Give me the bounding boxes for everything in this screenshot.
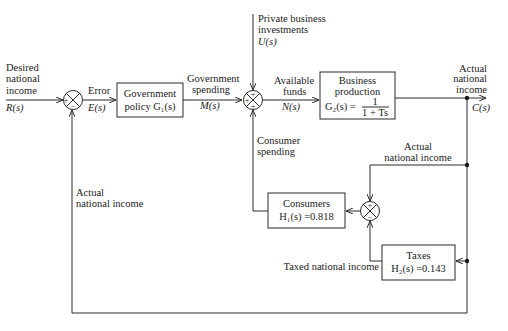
label-available-funds: Available funds N(s) [274,75,314,113]
label-desired-income: Desired national income R(s) [5,62,40,114]
taxes-block-title: Taxes [406,250,430,261]
branch-point-inner [465,163,469,167]
sj3-minus-sign: − [368,213,373,222]
sj1-minus-sign: − [71,102,76,111]
desired-line2: national [6,73,40,84]
label-private-investment: Private business investments U(s) [258,13,326,48]
sj2-bottom-plus-sign: + [251,102,256,111]
block-government-policy: Government policy G₁(s) [117,83,183,117]
private-investment-line1: Private business [258,13,326,24]
error-label: Error [88,85,111,96]
summing-junction-1: + − [64,91,83,111]
sj1-plus-sign: + [64,96,69,105]
feedback-income-line1: Actual [76,187,104,198]
taxes-block-gain: H₂(s) =0.143 [391,263,446,275]
branch-point-output [465,96,469,100]
taxed-income-label: Taxed national income [284,261,380,272]
wire-consumer-spending [253,110,268,211]
available-funds-line2: funds [283,86,306,97]
business-block-title: Business [339,75,376,86]
label-taxed-income: Taxed national income [284,261,380,272]
business-block-numerator: 1 [372,96,377,107]
summing-junction-2: + + + [244,90,263,111]
sj2-top-plus-sign: + [251,90,256,99]
block-taxes: Taxes H₂(s) =0.143 [382,245,455,280]
feedback-income-line2: national income [76,198,144,209]
desired-line1: Desired [6,62,39,73]
wire-taxed-income [370,221,382,261]
signal-u: U(s) [258,36,277,48]
business-block-lhs: G₂(s) = [325,101,356,113]
national-income-block-diagram: + − + + + + − Government policy G₁(s) Bu… [0,0,508,331]
government-block-transfer-fn: policy G₁(s) [124,101,176,113]
signal-n: N(s) [281,101,301,113]
sj3-plus-sign: + [368,201,373,210]
business-block-denominator: 1 + Ts [362,107,388,118]
gov-spending-line1: Government [187,73,240,84]
available-funds-line1: Available [274,75,314,86]
signal-m: M(s) [199,100,220,112]
signal-e: E(s) [87,102,106,114]
desired-line3: income [6,85,37,96]
consumer-spending-line2: spending [257,146,296,157]
sj2-left-plus-sign: + [245,96,250,105]
signal-c: C(s) [472,102,491,114]
consumer-spending-line1: Consumer [257,135,301,146]
inner-income-line2: national income [384,152,452,163]
private-investment-line2: investments [258,24,308,35]
government-block-title: Government [124,88,177,99]
branch-point-taxes [465,259,469,263]
inner-income-line1: Actual [404,141,432,152]
label-actual-income-inner: Actual national income [384,141,452,163]
consumers-block-title: Consumers [283,198,330,209]
block-business-production: Business production G₂(s) = 1 1 + Ts [320,72,395,119]
label-gov-spending: Government spending M(s) [187,73,240,112]
output-line3: income [456,84,487,95]
summing-junction-3: + − [361,201,380,222]
wire-income-to-sj3 [370,165,467,201]
consumers-block-gain: H₁(s) =0.818 [279,211,334,223]
signal-r: R(s) [5,102,24,114]
label-actual-income-feedback: Actual national income [76,187,144,209]
block-consumers: Consumers H₁(s) =0.818 [268,193,345,228]
label-consumer-spending: Consumer spending [257,135,301,157]
output-line2: national [453,73,487,84]
label-actual-income-output: Actual national income C(s) [453,63,490,114]
gov-spending-line2: spending [192,84,231,95]
